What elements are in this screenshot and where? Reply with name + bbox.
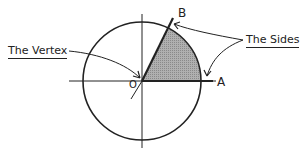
vertex-label: The Vertex — [8, 44, 67, 59]
point-a-label: A — [217, 75, 225, 89]
sides-arrow-to-b — [174, 24, 243, 40]
angle-diagram — [0, 0, 304, 150]
vertex-arrow — [69, 51, 140, 78]
shaded-angle-sector — [142, 29, 201, 81]
origin-label: O — [129, 79, 137, 90]
sides-arrow-to-a — [207, 40, 243, 76]
point-b-label: B — [178, 6, 186, 20]
sides-label: The Sides — [246, 33, 299, 48]
